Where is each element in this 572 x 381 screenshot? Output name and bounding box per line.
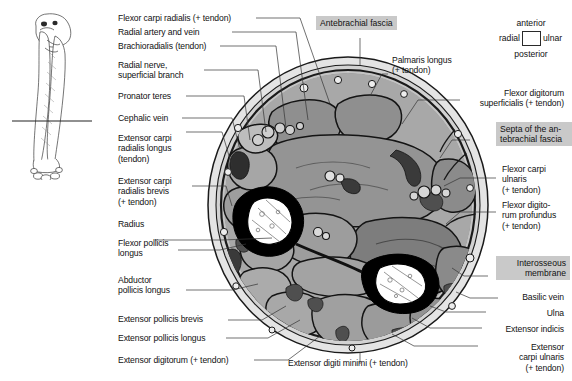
label-flexor-digitorum-profundus: Flexor digito- rum profundus (+ tendon)	[502, 200, 568, 231]
label-extensor-digitorum: Extensor digitorum (+ tendon)	[118, 355, 229, 365]
label-cephalic-vein: Cephalic vein	[118, 113, 168, 123]
orientation-posterior: posterior	[492, 49, 570, 59]
label-extensor-pollicis-longus: Extensor pollicis longus	[118, 333, 205, 343]
label-flexor-carpi-radialis: Flexor carpi radialis (+ tendon)	[118, 13, 231, 23]
label-flexor-pollicis-longus: Flexor pollicis longus	[118, 238, 169, 259]
callout-antebrachial-fascia: Antebrachial fascia	[316, 16, 397, 30]
radius-bone	[233, 187, 304, 256]
label-palmaris-longus: Palmaris longus (+ tendon)	[392, 55, 452, 76]
label-extensor-carpi-radialis-brevis: Extensor carpi radialis brevis (+ tendon…	[118, 176, 172, 207]
orientation-anterior: anterior	[492, 18, 570, 28]
label-ulna: Ulna	[492, 308, 564, 318]
callout-interosseous-membrane: Interosseous membrane	[496, 256, 570, 280]
label-flexor-digitorum-superficialis: Flexor digitorum superficialis (+ tendon…	[452, 88, 564, 109]
forearm-skeleton-thumbnail	[12, 14, 92, 181]
orientation-ulnar: ulnar	[543, 33, 562, 43]
label-radius: Radius	[118, 219, 144, 229]
label-pronator-teres: Pronator teres	[118, 91, 171, 101]
label-basilic-vein: Basilic vein	[492, 292, 564, 302]
label-brachioradialis-tendon: Brachioradialis (tendon)	[118, 41, 206, 51]
label-radial-artery-and-vein: Radial artery and vein	[118, 27, 199, 37]
orientation-key: anterior radial ulnar posterior	[492, 18, 570, 62]
label-extensor-digiti-minimi: Extensor digiti minimi (+ tendon)	[288, 358, 408, 368]
label-extensor-indicis: Extensor indicis	[464, 324, 564, 334]
label-extensor-pollicis-brevis: Extensor pollicis brevis	[118, 314, 203, 324]
orientation-radial: radial	[492, 33, 520, 43]
label-extensor-carpi-ulnaris: Extensor carpi ulnaris (+ tendon)	[478, 342, 564, 373]
label-extensor-carpi-radialis-longus: Extensor carpi radialis longus (tendon)	[118, 133, 172, 164]
orientation-box	[522, 31, 541, 46]
label-abductor-pollicis-longus: Abductor pollicis longus	[118, 275, 170, 296]
callout-septa-antebrachial-fascia: Septa of the an- tebrachial fascia	[496, 122, 572, 146]
label-radial-nerve-superficial-branch: Radial nerve, superficial branch	[118, 60, 184, 81]
label-flexor-carpi-ulnaris: Flexor carpi ulnaris (+ tendon)	[502, 164, 568, 195]
